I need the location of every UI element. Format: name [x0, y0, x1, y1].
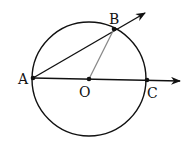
ray-ab	[33, 13, 145, 78]
point-c	[145, 78, 150, 83]
label-o: O	[79, 84, 90, 100]
ray-ac	[33, 78, 180, 81]
point-o	[87, 77, 92, 82]
label-b: B	[109, 11, 119, 27]
point-a	[31, 76, 36, 81]
geometry-diagram: A B O C	[0, 0, 190, 148]
point-b	[112, 27, 117, 32]
segment-ob	[89, 29, 114, 79]
label-a: A	[17, 71, 29, 87]
label-c: C	[147, 85, 158, 101]
